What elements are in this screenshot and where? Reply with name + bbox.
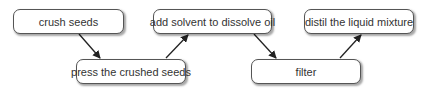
arrow-solvent-to-filter — [254, 34, 276, 58]
arrow-filter-to-distil — [340, 35, 361, 58]
node-distil-liquid-mixture: distil the liquid mixture — [304, 9, 414, 34]
node-label: press the crushed seeds — [71, 66, 191, 78]
node-crush-seeds: crush seeds — [13, 9, 124, 34]
node-label: crush seeds — [39, 16, 98, 28]
node-label: add solvent to dissolve oil — [150, 16, 275, 28]
flowchart-diagram: crush seeds press the crushed seeds add … — [0, 0, 430, 91]
node-add-solvent: add solvent to dissolve oil — [153, 9, 272, 34]
node-label: distil the liquid mixture — [305, 16, 413, 28]
arrow-crush-to-press — [79, 34, 100, 58]
arrow-press-to-solvent — [166, 35, 188, 58]
node-filter: filter — [251, 59, 361, 84]
node-label: filter — [296, 66, 317, 78]
node-press-crushed-seeds: press the crushed seeds — [76, 59, 186, 84]
